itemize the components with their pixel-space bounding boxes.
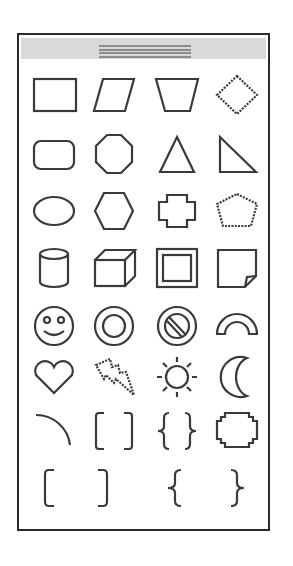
block-arc-icon	[213, 304, 261, 348]
hexagon-icon	[90, 190, 138, 234]
cube-icon	[90, 246, 138, 290]
smiley-icon	[30, 304, 78, 348]
shape-sun[interactable]	[149, 351, 205, 403]
cross-icon	[153, 190, 201, 234]
shape-left-brace[interactable]	[149, 462, 205, 514]
shape-cube[interactable]	[86, 242, 142, 294]
shape-rectangle[interactable]	[26, 70, 82, 122]
right-triangle-icon	[213, 133, 261, 177]
rounded-rectangle-icon	[30, 133, 78, 177]
shape-isosceles-triangle[interactable]	[149, 129, 205, 181]
parallelogram-icon	[90, 74, 138, 118]
triangle-icon	[153, 133, 201, 177]
lightning-bolt-icon	[90, 355, 138, 399]
shape-right-triangle[interactable]	[209, 129, 265, 181]
shapes-palette	[17, 33, 270, 531]
shape-can[interactable]	[26, 242, 82, 294]
shape-right-bracket[interactable]	[86, 462, 142, 514]
no-symbol-icon	[153, 304, 201, 348]
shape-heart[interactable]	[26, 351, 82, 403]
shape-moon[interactable]	[209, 351, 265, 403]
grip-icon	[99, 45, 191, 58]
shape-folded-corner[interactable]	[209, 242, 265, 294]
shape-cross[interactable]	[149, 186, 205, 238]
shape-rounded-rectangle[interactable]	[26, 129, 82, 181]
shape-plaque[interactable]	[209, 405, 265, 457]
shape-octagon[interactable]	[86, 129, 142, 181]
shape-ellipse[interactable]	[26, 186, 82, 238]
plaque-icon	[213, 409, 261, 453]
shape-diamond[interactable]	[209, 70, 265, 122]
octagon-icon	[90, 133, 138, 177]
ellipse-icon	[30, 190, 78, 234]
right-brace-icon	[213, 466, 261, 510]
double-bracket-icon	[90, 409, 138, 453]
shape-block-arc[interactable]	[209, 300, 265, 352]
bevel-icon	[153, 246, 201, 290]
folded-corner-icon	[213, 246, 261, 290]
shape-arc[interactable]	[26, 405, 82, 457]
shape-left-bracket[interactable]	[26, 462, 82, 514]
trapezoid-icon	[153, 74, 201, 118]
heart-icon	[30, 355, 78, 399]
shape-trapezoid[interactable]	[149, 70, 205, 122]
shape-pentagon[interactable]	[209, 186, 265, 238]
rectangle-icon	[30, 74, 78, 118]
shape-double-bracket[interactable]	[86, 405, 142, 457]
right-bracket-icon	[90, 466, 138, 510]
shape-double-brace[interactable]	[149, 405, 205, 457]
shape-parallelogram[interactable]	[86, 70, 142, 122]
moon-icon	[213, 355, 261, 399]
shape-lightning-bolt[interactable]	[86, 351, 142, 403]
sun-icon	[153, 355, 201, 399]
arc-icon	[30, 409, 78, 453]
shape-no-symbol[interactable]	[149, 300, 205, 352]
shape-right-brace[interactable]	[209, 462, 265, 514]
left-bracket-icon	[30, 466, 78, 510]
pentagon-icon	[213, 190, 261, 234]
shape-smiley-face[interactable]	[26, 300, 82, 352]
donut-icon	[90, 304, 138, 348]
shape-bevel[interactable]	[149, 242, 205, 294]
double-brace-icon	[153, 409, 201, 453]
palette-titlebar-drag-handle[interactable]	[21, 38, 266, 59]
cylinder-icon	[30, 246, 78, 290]
diamond-icon	[213, 74, 261, 118]
left-brace-icon	[153, 466, 201, 510]
shape-hexagon[interactable]	[86, 186, 142, 238]
shape-donut[interactable]	[86, 300, 142, 352]
